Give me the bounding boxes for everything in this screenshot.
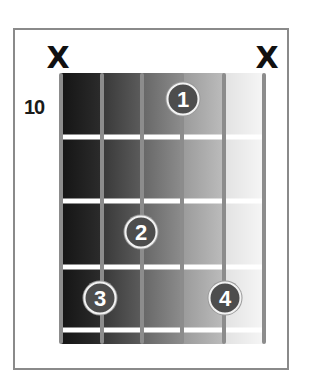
muted-string-marker-6: X	[255, 43, 278, 73]
finger-number: 2	[135, 219, 147, 245]
fret-line-2	[63, 199, 263, 204]
finger-number: 1	[177, 86, 189, 112]
fret-line-1	[63, 135, 263, 140]
starting-fret-label: 10	[24, 96, 44, 118]
finger-number: 4	[219, 285, 231, 311]
finger-number: 3	[94, 285, 106, 311]
finger-dot-3: 3	[84, 282, 117, 315]
fret-line-4	[63, 328, 263, 333]
fretboard: 1 2 3 4	[59, 73, 267, 344]
finger-dot-4: 4	[209, 282, 242, 315]
fret-line-3	[63, 265, 263, 270]
string-1	[59, 73, 63, 344]
finger-dot-2: 2	[125, 216, 158, 249]
string-6	[262, 73, 266, 344]
string-3	[140, 73, 144, 344]
muted-string-marker-1: X	[46, 43, 69, 73]
finger-dot-1: 1	[167, 83, 200, 116]
